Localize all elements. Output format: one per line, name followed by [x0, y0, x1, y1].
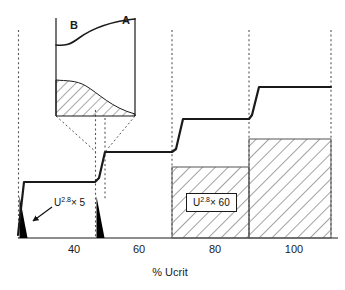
x-tick-label-60: 60	[133, 243, 145, 255]
low-speed-cost-annotation: U2.8× 5	[54, 196, 85, 208]
high-speed-cost-annotation: U2.8× 60	[186, 193, 237, 212]
hatched-bars-group	[172, 139, 331, 238]
inset-panel-b	[56, 18, 135, 152]
high-speed-cost-multiplier: × 60	[210, 197, 230, 208]
x-axis-title: % Ucrit	[152, 266, 187, 278]
x-tick-label-80: 80	[209, 243, 221, 255]
x-tick-label-100: 100	[285, 243, 303, 255]
low-speed-cost-exponent: 2.8	[61, 196, 71, 203]
inset-connector-right	[105, 116, 135, 152]
high-speed-cost-exponent: 2.8	[200, 196, 210, 203]
low-speed-cost-arrow	[33, 207, 52, 221]
anaerobic-spike-2	[97, 196, 105, 238]
figure-container: A B U2.8× 5 U2.8× 60 40 60 80 100 % Ucri…	[0, 0, 345, 290]
panel-label-a: A	[122, 14, 130, 26]
hatched-bar-2	[249, 139, 331, 238]
x-tick-label-40: 40	[68, 243, 80, 255]
low-speed-cost-multiplier: × 5	[71, 197, 85, 208]
inset-hatched-band	[56, 80, 135, 116]
inset-connector-left	[56, 116, 96, 152]
panel-label-b: B	[70, 19, 78, 31]
